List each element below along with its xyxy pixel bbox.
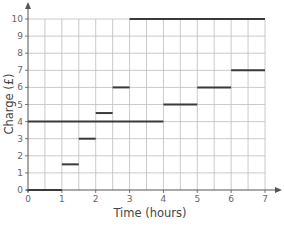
x-axis-arrow-icon — [275, 187, 282, 193]
x-tick-label: 3 — [127, 194, 133, 204]
y-axis-arrow-icon — [25, 2, 31, 9]
y-tick-label: 10 — [12, 14, 24, 24]
x-tick-label: 0 — [25, 194, 31, 204]
x-axis-label: Time (hours) — [112, 206, 186, 220]
y-tick-label: 6 — [17, 82, 23, 92]
y-tick-label: 5 — [17, 100, 23, 110]
y-tick-label: 9 — [17, 31, 23, 41]
x-tick-label: 7 — [262, 194, 268, 204]
y-tick-label: 8 — [17, 48, 23, 58]
x-tick-label: 1 — [59, 194, 65, 204]
x-tick-label: 2 — [93, 194, 99, 204]
y-tick-label: 2 — [17, 151, 23, 161]
y-tick-label: 3 — [17, 134, 23, 144]
tick-labels: 01234567012345678910 — [12, 14, 268, 204]
x-tick-label: 4 — [161, 194, 167, 204]
step-chart: 01234567012345678910 Time (hours) Charge… — [0, 0, 284, 233]
x-tick-label: 5 — [194, 194, 200, 204]
x-tick-label: 6 — [228, 194, 234, 204]
y-tick-label: 7 — [17, 65, 23, 75]
y-tick-label: 1 — [17, 168, 23, 178]
y-tick-label: 0 — [17, 185, 23, 195]
y-axis-label: Charge (£) — [2, 73, 16, 134]
y-tick-label: 4 — [17, 117, 23, 127]
